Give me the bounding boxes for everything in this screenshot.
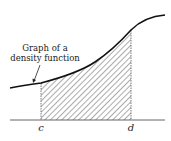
- density-function-diagram: Graph of a density function c d: [0, 0, 171, 141]
- lower-bound-label: c: [38, 122, 44, 133]
- diagram-canvas: Graph of a density function c d: [0, 0, 171, 141]
- arrow-head-icon: [33, 79, 37, 84]
- annotation-line-1: Graph of a: [22, 43, 68, 53]
- annotation-line-2: density function: [10, 53, 80, 63]
- annotation-pointer: [34, 65, 40, 81]
- upper-bound-label: d: [128, 122, 134, 133]
- shaded-probability-area: [41, 20, 131, 120]
